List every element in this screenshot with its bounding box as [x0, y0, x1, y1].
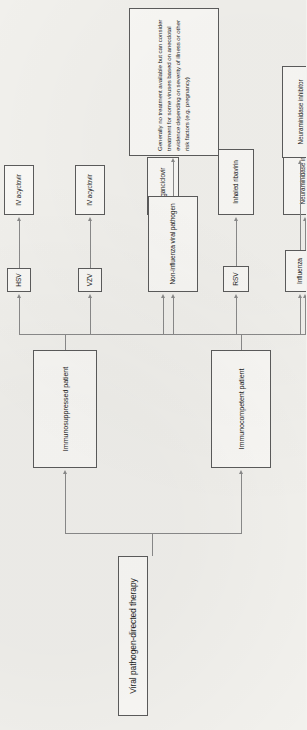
- node-branch-immunosuppressed: Immunosuppressed patient: [33, 350, 97, 468]
- node-treatment-rsv: Inhaled ribavirin: [218, 149, 254, 215]
- node-path-vzv: VZV: [78, 268, 102, 292]
- connector-fan-to-cmv: [163, 296, 164, 335]
- arrow-to-cmv: [161, 294, 165, 298]
- connector-trunk-to-immunosuppressed: [65, 472, 66, 534]
- flowchart-canvas: Viral pathogen-directed therapy Immunosu…: [0, 0, 306, 730]
- node-treatment-vzv: IV acyclovir: [75, 165, 105, 215]
- node-root: Viral pathogen-directed therapy: [118, 556, 148, 716]
- node-path-influenza-immunocompetent: Influenza: [285, 250, 306, 292]
- node-path-hsv: HSV: [7, 268, 31, 292]
- node-treatment-influenza-immunocompetent-label: Neuraminidase inhibitor: [297, 69, 305, 155]
- node-branch-immunocompetent-label: Immunocompetent patient: [237, 353, 246, 465]
- node-root-label: Viral pathogen-directed therapy: [128, 559, 139, 713]
- node-path-influenza-immunocompetent-label: Influenza: [296, 253, 304, 289]
- connector-immunocompetent-fan: [173, 334, 300, 335]
- connector-fan-to-influenza-is: [305, 296, 306, 335]
- arrow-to-influenza-is: [303, 294, 307, 298]
- connector-trunk-to-immunocompetent: [241, 472, 242, 534]
- connector-influenza-ic-to-treatment: [300, 162, 301, 250]
- node-path-non-influenza-label: Non-influenza viral pathogen: [169, 199, 177, 289]
- node-branch-immunocompetent: Immunocompetent patient: [211, 350, 271, 468]
- arrow-to-rsv: [234, 294, 238, 298]
- connector-immunocompetent-stem: [241, 335, 242, 350]
- node-treatment-rsv-label: Inhaled ribavirin: [232, 152, 240, 212]
- arrow-to-hsv: [17, 294, 21, 298]
- node-treatment-hsv: IV acyclovir: [4, 165, 34, 215]
- connector-fan-to-rsv: [236, 296, 237, 335]
- connector-rsv-to-treatment: [236, 219, 237, 266]
- node-path-hsv-label: HSV: [15, 271, 23, 289]
- arrow-rsv-to-treatment: [234, 217, 238, 221]
- connector-root-stem: [152, 534, 153, 556]
- connector-hsv-to-treatment: [19, 219, 20, 268]
- arrow-to-influenza-ic: [298, 294, 302, 298]
- arrow-to-vzv: [88, 294, 92, 298]
- arrow-vzv-to-treatment: [88, 217, 92, 221]
- connector-vzv-to-treatment: [90, 219, 91, 268]
- arrow-influenza-ic-to-treatment: [298, 160, 302, 164]
- node-treatment-vzv-label: IV acyclovir: [86, 168, 94, 212]
- arrow-to-immunosuppressed: [63, 470, 67, 474]
- connector-fan-to-influenza-ic: [300, 296, 301, 335]
- node-branch-immunosuppressed-label: Immunosuppressed patient: [61, 353, 70, 465]
- connector-root-trunk: [65, 533, 241, 534]
- connector-fan-to-noninfluenza: [173, 296, 174, 335]
- node-path-vzv-label: VZV: [86, 271, 94, 289]
- connector-immunosuppressed-stem: [65, 335, 66, 350]
- node-path-rsv: RSV: [223, 266, 249, 292]
- node-treatment-influenza-immunocompetent: Neuraminidase inhibitor: [282, 66, 306, 158]
- arrow-to-noninfluenza: [171, 294, 175, 298]
- arrow-influenza-is-to-treatment: [303, 217, 307, 221]
- arrow-hsv-to-treatment: [17, 217, 21, 221]
- node-treatment-non-influenza-label: Generally no treatment available but can…: [156, 13, 192, 151]
- node-path-rsv-label: RSV: [232, 269, 240, 289]
- connector-fan-to-vzv: [90, 296, 91, 335]
- connector-influenza-is-to-treatment: [305, 219, 306, 252]
- connector-fan-to-hsv: [19, 296, 20, 335]
- node-treatment-non-influenza: Generally no treatment available but can…: [129, 8, 219, 156]
- arrow-to-immunocompetent: [239, 470, 243, 474]
- connector-noninfluenza-to-treatment: [173, 160, 174, 196]
- node-treatment-hsv-label: IV acyclovir: [15, 168, 23, 212]
- node-path-non-influenza: Non-influenza viral pathogen: [148, 196, 198, 292]
- arrow-noninfluenza-to-treatment: [171, 158, 175, 162]
